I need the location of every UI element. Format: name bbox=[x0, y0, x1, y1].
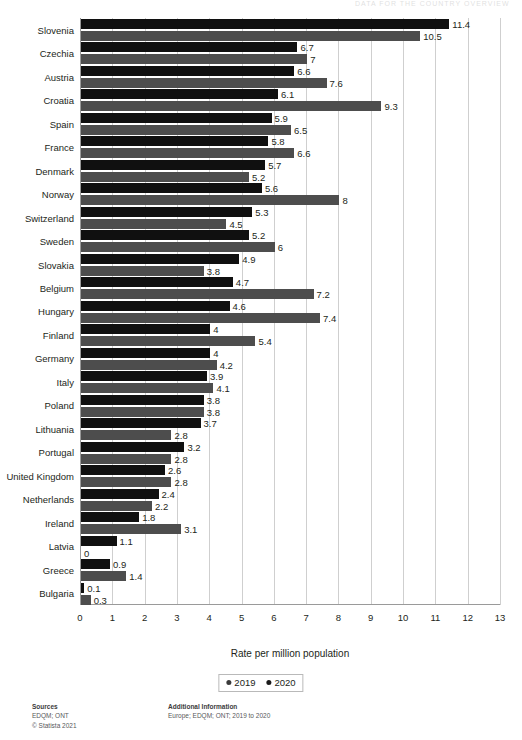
category-label: Spain bbox=[50, 118, 74, 129]
bar-2019: 4.7 bbox=[81, 277, 233, 287]
legend-item-2020[interactable]: 2020 bbox=[267, 677, 296, 688]
bar-value-label: 6.5 bbox=[294, 124, 307, 135]
bar-value-label: 5.9 bbox=[275, 112, 288, 123]
bar-value-label: 6.6 bbox=[297, 148, 310, 159]
bar-value-label: 0.3 bbox=[94, 594, 107, 605]
bar-value-label: 5.4 bbox=[258, 336, 271, 347]
bar-value-label: 2.2 bbox=[155, 500, 168, 511]
chart-row: Hungary4.67.4 bbox=[80, 300, 500, 323]
x-tick-label-4: 4 bbox=[207, 612, 212, 623]
chart-row: Latvia1.10 bbox=[80, 535, 500, 558]
x-tick-label-2: 2 bbox=[142, 612, 147, 623]
bar-value-label: 3.8 bbox=[207, 406, 220, 417]
bar-2020: 6 bbox=[81, 242, 275, 252]
chart-row: Denmark5.75.2 bbox=[80, 159, 500, 182]
bar-2020: 7.6 bbox=[81, 78, 327, 88]
bar-value-label: 7.6 bbox=[330, 77, 343, 88]
additional-info-title: Additional Information bbox=[168, 702, 270, 711]
sources-line-1: EDQM; ONT bbox=[32, 711, 77, 720]
bar-value-label: 3.7 bbox=[204, 418, 217, 429]
bar-value-label: 6.7 bbox=[300, 42, 313, 53]
bar-value-label: 5.2 bbox=[252, 230, 265, 241]
bar-value-label: 2.8 bbox=[174, 477, 187, 488]
category-label: Belgium bbox=[40, 283, 74, 294]
x-tick-label-11: 11 bbox=[430, 612, 440, 623]
bar-chart: Slovenia11.410.5Czechia6.77Austria6.67.6… bbox=[0, 18, 522, 630]
bar-2020: 4.1 bbox=[81, 383, 213, 393]
bar-2020: 1.4 bbox=[81, 571, 126, 581]
category-label: Greece bbox=[43, 564, 74, 575]
chart-row: Belgium4.77.2 bbox=[80, 276, 500, 299]
bar-value-label: 0.1 bbox=[87, 582, 100, 593]
category-label: France bbox=[44, 142, 74, 153]
bar-2020: 6.5 bbox=[81, 125, 291, 135]
sources-block: Sources EDQM; ONT © Statista 2021 bbox=[32, 702, 77, 730]
category-label: Italy bbox=[57, 376, 74, 387]
bar-2019: 6.7 bbox=[81, 42, 297, 52]
bar-value-label: 8 bbox=[342, 195, 347, 206]
category-label: Finland bbox=[43, 329, 74, 340]
category-label: Denmark bbox=[35, 165, 74, 176]
bar-value-label: 4.9 bbox=[242, 253, 255, 264]
bar-value-label: 4.1 bbox=[216, 383, 229, 394]
legend-label: 2020 bbox=[275, 677, 296, 688]
bar-2019: 4 bbox=[81, 324, 210, 334]
x-tick-label-0: 0 bbox=[77, 612, 82, 623]
chart-row: Norway5.68 bbox=[80, 182, 500, 205]
bar-value-label: 3.2 bbox=[187, 441, 200, 452]
bar-value-label: 6.6 bbox=[297, 65, 310, 76]
legend-item-2019[interactable]: 2019 bbox=[226, 677, 255, 688]
bar-value-label: 4 bbox=[213, 347, 218, 358]
bar-value-label: 1.4 bbox=[129, 571, 142, 582]
bar-2020: 0.3 bbox=[81, 595, 91, 605]
x-tick-label-3: 3 bbox=[174, 612, 179, 623]
x-tick-label-13: 13 bbox=[495, 612, 506, 623]
bar-value-label: 6 bbox=[278, 242, 283, 253]
bar-2019: 3.9 bbox=[81, 371, 207, 381]
bar-value-label: 4.5 bbox=[229, 218, 242, 229]
chart-page: DATA FOR THE COUNTRY OVERVIEW Slovenia11… bbox=[0, 0, 522, 740]
bar-value-label: 7.2 bbox=[317, 289, 330, 300]
bar-value-label: 1.8 bbox=[142, 512, 155, 523]
chart-row: Netherlands2.42.2 bbox=[80, 488, 500, 511]
bar-value-label: 9.3 bbox=[384, 101, 397, 112]
bar-value-label: 4.6 bbox=[233, 300, 246, 311]
chart-row: Slovakia4.93.8 bbox=[80, 253, 500, 276]
bar-value-label: 7.4 bbox=[323, 312, 336, 323]
bar-value-label: 1.1 bbox=[120, 535, 133, 546]
bar-2020: 2.8 bbox=[81, 430, 171, 440]
category-label: Switzerland bbox=[25, 212, 74, 223]
category-label: United Kingdom bbox=[6, 470, 74, 481]
x-tick-label-9: 9 bbox=[368, 612, 373, 623]
bar-2019: 3.2 bbox=[81, 442, 184, 452]
bar-2019: 6.1 bbox=[81, 89, 278, 99]
category-label: Latvia bbox=[49, 541, 74, 552]
bar-value-label: 6.1 bbox=[281, 89, 294, 100]
bar-2020: 5.2 bbox=[81, 172, 249, 182]
bar-value-label: 4 bbox=[213, 324, 218, 335]
bar-2019: 6.6 bbox=[81, 66, 294, 76]
chart-row: Italy3.94.1 bbox=[80, 370, 500, 393]
bar-value-label: 5.7 bbox=[268, 159, 281, 170]
bar-2020: 3.1 bbox=[81, 524, 181, 534]
category-label: Slovakia bbox=[38, 259, 74, 270]
bar-2019: 2.6 bbox=[81, 465, 165, 475]
bar-2020: 10.5 bbox=[81, 31, 420, 41]
bar-2019: 5.3 bbox=[81, 207, 252, 217]
bar-value-label: 2.8 bbox=[174, 453, 187, 464]
x-tick-label-6: 6 bbox=[271, 612, 276, 623]
bar-2019: 5.8 bbox=[81, 136, 268, 146]
bar-2020: 4.2 bbox=[81, 360, 217, 370]
bar-value-label: 10.5 bbox=[423, 31, 442, 42]
x-tick-label-12: 12 bbox=[462, 612, 473, 623]
additional-info-line-1: Europe; EDQM; ONT; 2019 to 2020 bbox=[168, 711, 270, 720]
category-label: Ireland bbox=[45, 517, 74, 528]
bar-2019: 3.8 bbox=[81, 395, 204, 405]
bar-value-label: 5.2 bbox=[252, 171, 265, 182]
additional-info-block: Additional Information Europe; EDQM; ONT… bbox=[168, 702, 270, 721]
x-axis-title: Rate per million population bbox=[80, 648, 500, 659]
bar-2019: 0.9 bbox=[81, 559, 110, 569]
bar-2020: 5.4 bbox=[81, 336, 255, 346]
bar-value-label: 3.8 bbox=[207, 265, 220, 276]
cropped-header-text: DATA FOR THE COUNTRY OVERVIEW bbox=[355, 0, 515, 8]
